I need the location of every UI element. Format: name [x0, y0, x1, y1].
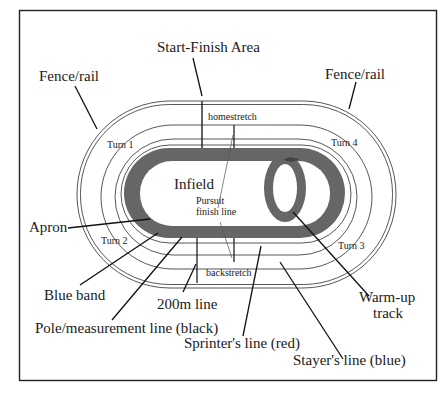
label-fence-right: Fence/rail — [325, 66, 385, 82]
warmup-track-inner — [273, 164, 297, 212]
label-200m-line: 200m line — [157, 296, 218, 312]
label-apron: Apron — [29, 219, 68, 235]
label-turn4: Turn 4 — [331, 137, 358, 148]
label-turn1: Turn 1 — [107, 139, 134, 150]
label-pursuit-2: finish line — [196, 206, 237, 217]
label-sprinter-line: Sprinter's line (red) — [184, 335, 300, 352]
label-infield: Infield — [174, 176, 214, 192]
label-backstretch: backstretch — [206, 267, 252, 278]
label-warmup-1: Warm-up — [359, 289, 415, 305]
label-start-finish: Start-Finish Area — [157, 39, 260, 55]
label-warmup-2: track — [373, 305, 403, 321]
label-turn3: Turn 3 — [338, 240, 365, 251]
label-homestretch: homestretch — [208, 111, 257, 122]
label-turn2: Turn 2 — [101, 235, 128, 246]
label-pursuit-1: Pursuit — [196, 195, 225, 206]
label-fence-left: Fence/rail — [39, 68, 99, 84]
label-blue-band: Blue band — [44, 287, 106, 303]
velodrome-diagram: Start-Finish Area Fence/rail Fence/rail … — [0, 0, 441, 395]
label-stayer-line: Stayer's line (blue) — [293, 352, 406, 369]
